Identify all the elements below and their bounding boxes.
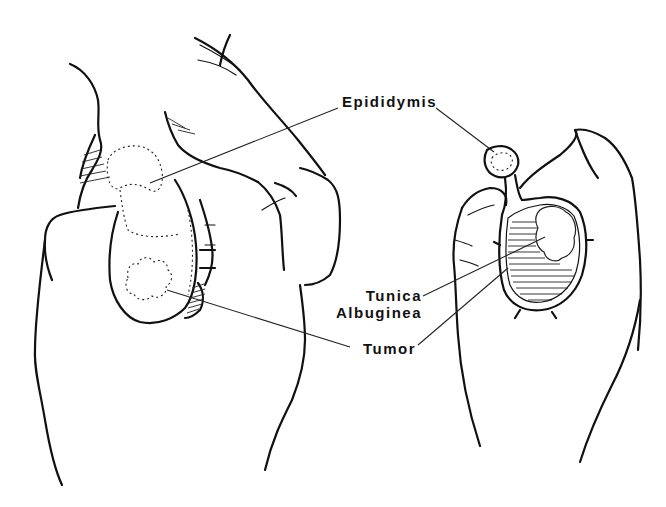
label-tunica: Tunica — [330, 287, 422, 305]
label-epididymis: Epididymis — [342, 93, 437, 111]
left-hand-drawing — [35, 35, 340, 485]
right-hand-drawing — [453, 129, 640, 462]
anatomical-figure: Epididymis Tunica Albuginea Tumor — [0, 0, 666, 507]
illustration-canvas — [0, 0, 666, 507]
label-albuginea: Albuginea — [330, 304, 422, 322]
left-testis — [107, 146, 215, 323]
label-tumor: Tumor — [330, 340, 416, 358]
right-testis — [485, 146, 593, 318]
